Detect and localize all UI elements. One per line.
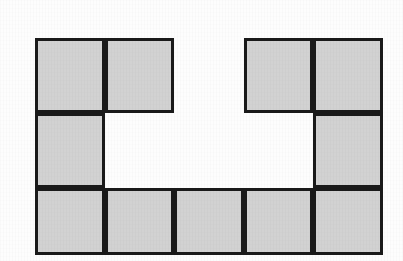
grid-cell (106, 190, 173, 254)
grid-cell (245, 40, 312, 112)
grid-cell (37, 40, 104, 112)
grid-cell (315, 190, 382, 254)
figure-canvas: Polyomino grid figure A shaded polyomino… (0, 0, 403, 261)
polyomino-grid-figure: Polyomino grid figure A shaded polyomino… (0, 0, 403, 261)
grid-cell (37, 190, 104, 254)
grid-cell (315, 40, 382, 112)
grid-cell (245, 190, 312, 254)
grid-cell (315, 115, 382, 187)
grid-cells-layer (37, 40, 382, 254)
grid-cell (176, 190, 243, 254)
grid-cell (106, 40, 173, 112)
grid-cell (37, 115, 104, 187)
